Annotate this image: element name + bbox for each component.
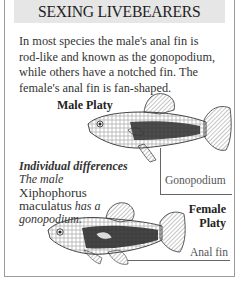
gonopodium-leader-base <box>160 194 232 195</box>
female-platy-label-line2: Platy <box>186 216 226 231</box>
section-title: SEXING LIVEBEARERS <box>38 2 200 22</box>
anal-fin-label: Anal fin <box>190 246 228 258</box>
section-header: SEXING LIVEBEARERS <box>14 0 225 23</box>
intro-line: In most species the male's anal fin is <box>19 34 229 50</box>
male-platy-illustration <box>86 90 236 170</box>
female-platy-label-line1: Female <box>186 202 226 217</box>
gonopodium-leader-line <box>160 148 161 194</box>
intro-paragraph: In most species the male's anal fin is r… <box>19 34 229 96</box>
intro-line: rod-like and known as the gonopodium, <box>19 50 229 66</box>
gonopodium-label: Gonopodium <box>165 174 226 186</box>
anal-fin-leader-line <box>128 260 230 261</box>
intro-line: while others have a notched fin. The <box>19 65 229 81</box>
